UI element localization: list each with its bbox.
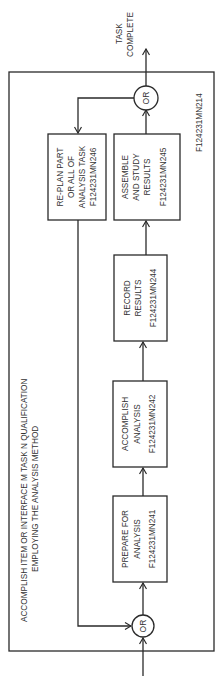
box-assemble-line-1: ASSEMBLE [121,154,130,199]
container-title-line-2: EMPLOYING THE ANALYSIS METHOD [31,426,40,572]
box-accomplish: ACCOMPLISH ANALYSIS F124231MN242 [113,381,167,467]
box-assemble: ASSEMBLE AND STUDY RESULTS F124231MN245 [114,134,180,220]
output-or-gate: OR [134,86,158,110]
box-assemble-line-2: AND STUDY [132,153,141,201]
box-assemble-line-3: RESULTS [143,158,152,196]
box-prepare-line-1: PREPARE FOR [121,510,130,568]
input-or-gate: OR [132,615,154,637]
box-replan-line-1: RE-PLAN PART [56,148,65,207]
container-title-line-1: ACCOMPLISH ITEM OR INTERFACE M TASK N QU… [20,379,29,622]
box-accomplish-id: F124231MN242 [148,394,157,453]
box-record-line-2: RESULTS [134,279,143,317]
output-or-label: OR [141,92,151,105]
box-record-line-1: RECORD [123,280,132,316]
box-assemble-id: F124231MN245 [159,147,168,206]
box-accomplish-line-1: ACCOMPLISH [121,397,130,451]
input-or-label: OR [138,620,148,633]
box-prepare-line-2: ANALYSIS [133,519,142,559]
box-prepare: PREPARE FOR ANALYSIS F124231MN241 [113,496,167,582]
box-replan-line-3: ANALYSIS TASK [78,145,87,208]
box-record-id: F124231MN244 [149,268,158,327]
flow-diagram: F124231MN214 ACCOMPLISH ITEM OR INTERFAC… [0,0,220,690]
box-accomplish-line-2: ANALYSIS [133,404,142,444]
box-replan: RE-PLAN PART OR ALL OF ANALYSIS TASK F12… [48,134,106,220]
box-record: RECORD RESULTS F124231MN244 [114,255,167,341]
output-label-line-1: TASK [115,23,124,44]
output-label-line-2: COMPLETE [126,11,135,57]
arrow-or-to-replan [78,98,134,133]
box-prepare-id: F124231MN241 [148,509,157,568]
box-replan-id: F124231MN246 [89,147,98,206]
container-id-label: F124231MN214 [195,93,204,152]
box-replan-line-2: OR ALL OF [67,156,76,198]
